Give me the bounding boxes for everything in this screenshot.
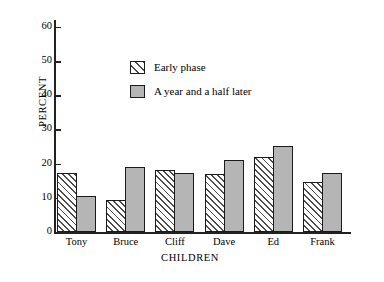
bar-group: Frank xyxy=(303,20,343,232)
y-axis-tick-label: 20 xyxy=(42,157,53,168)
bar[interactable] xyxy=(174,173,194,232)
bars-layer: TonyBruceCliffDaveEdFrank xyxy=(56,20,351,232)
bar[interactable] xyxy=(76,196,96,232)
bar[interactable] xyxy=(322,173,342,232)
legend-entry[interactable]: Early phase xyxy=(130,55,251,79)
bar[interactable] xyxy=(254,157,274,232)
bar[interactable] xyxy=(57,173,77,232)
plot-area: 0102030405060 TonyBruceCliffDaveEdFrank xyxy=(54,20,351,234)
bar[interactable] xyxy=(106,200,126,232)
y-axis-tick-label: 40 xyxy=(42,88,53,99)
y-axis-tick-label: 0 xyxy=(47,225,52,236)
hatched-swatch-icon xyxy=(130,61,145,74)
bar-group: Tony xyxy=(57,20,97,232)
x-axis-spine xyxy=(54,232,351,234)
x-axis-category-label: Frank xyxy=(291,236,354,247)
bar-group: Dave xyxy=(205,20,245,232)
bar-group: Bruce xyxy=(106,20,146,232)
bar[interactable] xyxy=(224,160,244,232)
legend-label: A year and a half later xyxy=(154,85,251,97)
solid-gray-swatch-icon xyxy=(130,85,145,98)
y-axis-tick-mark xyxy=(54,232,61,234)
bar[interactable] xyxy=(125,167,145,232)
bar[interactable] xyxy=(303,182,323,232)
y-axis-tick-label: 60 xyxy=(42,20,53,31)
bar-group: Cliff xyxy=(155,20,195,232)
legend-entry[interactable]: A year and a half later xyxy=(130,79,251,103)
bar[interactable] xyxy=(273,146,293,232)
bar[interactable] xyxy=(155,170,175,232)
bar[interactable] xyxy=(205,174,225,232)
bar-group: Ed xyxy=(254,20,294,232)
y-axis-tick: 0 xyxy=(20,232,64,233)
legend-label: Early phase xyxy=(154,61,206,73)
y-axis-tick-label: 50 xyxy=(42,54,53,65)
bar-chart: PERCENT 0102030405060 TonyBruceCliffDave… xyxy=(0,0,384,282)
y-axis-tick-label: 10 xyxy=(42,191,53,202)
y-axis-tick-label: 30 xyxy=(42,122,53,133)
x-axis-label: CHILDREN xyxy=(45,252,335,263)
chart-legend: Early phaseA year and a half later xyxy=(130,55,251,103)
